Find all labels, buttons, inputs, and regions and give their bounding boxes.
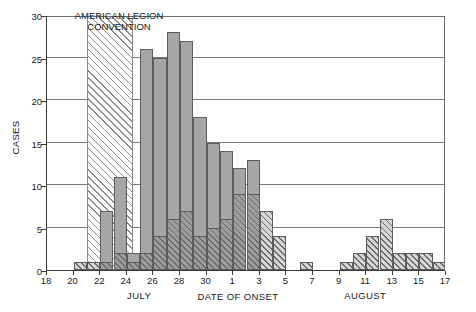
bar-hatched-subset: [127, 262, 140, 271]
bar-hatched-subset: [260, 211, 273, 271]
x-tick-label: 26: [147, 275, 158, 286]
x-tick-label: 20: [67, 275, 78, 286]
bar-hatched-subset: [207, 228, 220, 271]
x-tick-label: 13: [387, 275, 398, 286]
bar-hatched-subset: [393, 253, 406, 270]
bar-hatched-subset: [380, 219, 393, 270]
bar-hatched-subset: [406, 253, 419, 270]
bar-hatched-subset: [433, 262, 444, 271]
bar-hatched-subset: [100, 262, 113, 271]
bar-hatched-subset: [114, 253, 127, 270]
bar-hatched-subset: [87, 262, 100, 271]
bar-hatched-subset: [340, 262, 353, 271]
x-tick-label: 18: [41, 275, 52, 286]
bar-hatched-subset: [353, 253, 366, 270]
bar-hatched-subset: [247, 194, 260, 271]
bar-hatched-subset: [220, 219, 233, 270]
month-label: AUGUST: [344, 290, 386, 301]
bar-hatched-subset: [300, 262, 313, 271]
x-axis-tick-labels: 182022242628301357911131517: [46, 275, 445, 289]
bar-hatched-subset: [180, 211, 193, 271]
x-tick-label: 9: [336, 275, 341, 286]
bar-hatched-subset: [167, 219, 180, 270]
x-tick-label: 28: [174, 275, 185, 286]
x-tick-label: 11: [360, 275, 370, 286]
bar-hatched-subset: [419, 253, 432, 270]
bar-hatched-subset: [233, 194, 246, 271]
bar-hatched-subset: [193, 236, 206, 270]
epidemic-curve-chart: CASES 051015202530 AMERICAN LEGION CONVE…: [0, 0, 476, 312]
bar-hatched-subset: [140, 253, 153, 270]
bar-hatched-subset: [153, 236, 166, 270]
bar-total: [140, 49, 153, 270]
x-tick-label: 3: [256, 275, 261, 286]
x-tick-label: 24: [121, 275, 132, 286]
bar-hatched-subset: [366, 236, 379, 270]
x-axis-title: DATE OF ONSET: [0, 291, 476, 302]
month-label: JULY: [127, 290, 151, 301]
x-tick-label: 7: [309, 275, 314, 286]
y-axis-tick-labels: 051015202530: [16, 16, 42, 271]
bar-hatched-subset: [273, 236, 286, 270]
x-tick-label: 22: [94, 275, 105, 286]
x-tick-label: 15: [413, 275, 424, 286]
x-tick-label: 1: [230, 275, 235, 286]
x-tick-label: 5: [283, 275, 288, 286]
bar-hatched-subset: [74, 262, 87, 271]
x-tick-label: 30: [200, 275, 211, 286]
plot-area: [47, 17, 444, 270]
plot-frame: [46, 16, 445, 271]
x-tick-label: 17: [440, 275, 451, 286]
convention-annotation-label: AMERICAN LEGION CONVENTION: [60, 10, 178, 32]
